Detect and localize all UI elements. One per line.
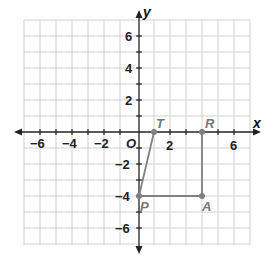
- y-tick-label: −6: [115, 221, 130, 236]
- point-label-p: P: [140, 199, 149, 214]
- y-tick-label: 2: [125, 93, 132, 108]
- point-label-a: A: [201, 199, 211, 214]
- x-tick-label: −6: [30, 136, 45, 151]
- x-arrow-left: [14, 129, 22, 136]
- y-tick-label: 4: [125, 61, 133, 76]
- x-tick-label: 6: [230, 138, 237, 153]
- y-arrow-down: [136, 246, 143, 254]
- y-tick-label: 6: [125, 29, 132, 44]
- y-tick-label: −2: [115, 157, 130, 172]
- y-arrow-up: [136, 10, 143, 18]
- x-axis-label: x: [252, 115, 262, 131]
- y-axis-label: y: [142, 4, 152, 20]
- axes: [18, 14, 256, 250]
- point-label-r: R: [205, 116, 215, 131]
- x-tick-label: −2: [94, 136, 109, 151]
- coordinate-plane: x y O −6 −4 −2 2 6 6 4 2 −2 −4 −6 T R A …: [0, 0, 273, 263]
- origin-label: O: [126, 136, 136, 151]
- y-tick-label: −4: [115, 189, 131, 204]
- point-label-t: T: [156, 116, 165, 131]
- x-tick-label: −4: [62, 136, 78, 151]
- x-tick-label: 2: [166, 138, 173, 153]
